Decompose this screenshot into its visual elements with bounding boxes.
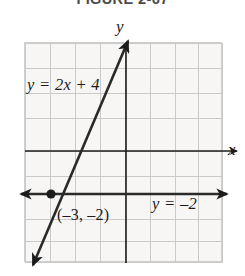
x-axis-label: x [228, 141, 236, 158]
figure-container: FIGURE 2-67 [0, 0, 245, 276]
line-equation-label: y = 2x + 4 [27, 77, 100, 94]
horizontal-line-equation-label: y = –2 [152, 196, 197, 213]
y-axis-label: y [116, 18, 124, 35]
intersection-point-marker [46, 189, 55, 198]
figure-title: FIGURE 2-67 [0, 0, 245, 7]
intersection-point-label: (–3, –2) [57, 207, 109, 223]
